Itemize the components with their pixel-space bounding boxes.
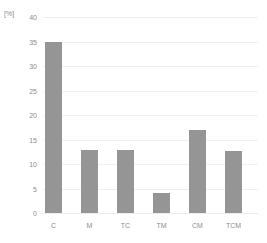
y-tick-label-30: 30 (29, 63, 37, 70)
x-tick-label-tc: TC (121, 222, 130, 229)
y-tick-label-35: 35 (29, 38, 37, 45)
plot-area: 40 35 30 25 20 15 10 5 0 C M (42, 17, 258, 213)
bar-cm: CM (189, 130, 206, 213)
x-tick-label-m: M (87, 222, 93, 229)
x-tick-label-c: C (51, 222, 56, 229)
gridline-0-baseline: 0 (42, 213, 258, 214)
bar-tc: TC (117, 150, 134, 213)
bar-chart: [%] 40 35 30 25 20 15 10 5 0 (0, 0, 267, 243)
bar-m: M (81, 150, 98, 213)
bar-c: C (45, 42, 62, 214)
bar-tm: TM (153, 193, 170, 213)
x-tick-label-cm: CM (192, 222, 203, 229)
y-axis-unit-label: [%] (4, 10, 14, 17)
x-tick-label-tcm: TCM (226, 222, 241, 229)
y-tick-label-0: 0 (33, 210, 37, 217)
gridline-30: 30 (42, 66, 258, 67)
gridline-15: 15 (42, 140, 258, 141)
y-tick-label-40: 40 (29, 14, 37, 21)
x-tick-label-tm: TM (156, 222, 166, 229)
gridline-25: 25 (42, 91, 258, 92)
y-tick-label-5: 5 (33, 185, 37, 192)
gridline-20: 20 (42, 115, 258, 116)
y-tick-label-25: 25 (29, 87, 37, 94)
y-tick-label-15: 15 (29, 136, 37, 143)
bar-tcm: TCM (225, 151, 242, 213)
y-tick-label-20: 20 (29, 112, 37, 119)
y-axis-line (42, 17, 43, 213)
y-tick-label-10: 10 (29, 161, 37, 168)
gridline-40: 40 (42, 17, 258, 18)
gridline-35: 35 (42, 42, 258, 43)
